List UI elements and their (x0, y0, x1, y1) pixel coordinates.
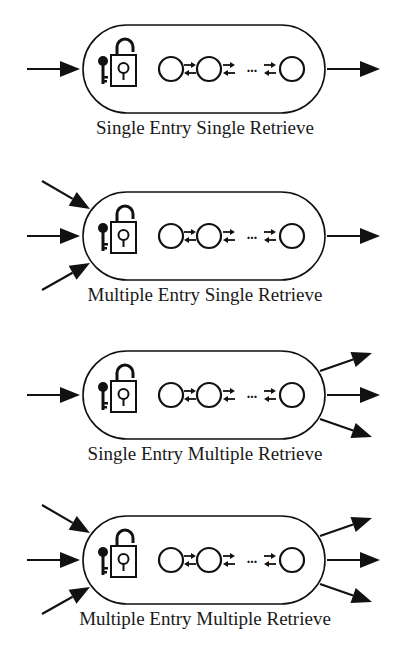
arrow-head (360, 552, 380, 568)
arrow-head (360, 61, 380, 77)
bidirectional-arrows-icon (223, 62, 235, 76)
arrow-shaft (320, 525, 353, 536)
arrow-shaft (42, 273, 73, 290)
retrieve-arrow-upper (320, 517, 372, 536)
arrow-head (60, 387, 80, 403)
panel-caption: Single Entry Single Retrieve (96, 117, 314, 138)
unlocked-padlock-icon (111, 39, 136, 86)
arrow-shaft (320, 584, 353, 595)
bidirectional-arrows-icon (264, 553, 276, 567)
circle-node-icon (159, 548, 183, 572)
arrow-head (60, 552, 80, 568)
arrow-head (350, 588, 372, 603)
circle-node-icon (280, 383, 304, 407)
arrow-head (350, 423, 372, 438)
retrieve-arrow (327, 61, 380, 77)
circle-node-icon (197, 548, 221, 572)
arrow-head (69, 516, 90, 533)
entry-arrow-lower (42, 263, 90, 290)
panel-caption: Multiple Entry Multiple Retrieve (79, 608, 331, 629)
bidirectional-arrows-icon (264, 229, 276, 243)
arrow-head (360, 387, 380, 403)
bidirectional-arrows-icon (184, 553, 196, 567)
arrow-shaft (42, 597, 73, 614)
retrieve-arrow-lower (320, 584, 372, 603)
ellipsis: ... (247, 551, 258, 566)
bidirectional-arrows-icon (223, 229, 235, 243)
unlocked-padlock-icon (111, 530, 136, 577)
arrow-shaft (42, 181, 73, 199)
arrow-shaft (320, 360, 353, 371)
circle-node-icon (159, 383, 183, 407)
entry-arrow-upper (42, 181, 90, 209)
key-icon (98, 223, 108, 251)
circle-node-icon (197, 224, 221, 248)
key-icon (98, 382, 108, 410)
arrow-head (360, 228, 380, 244)
arrow-head (60, 228, 80, 244)
entry-arrow (27, 387, 80, 403)
queue-diagram: ...Single Entry Single Retrieve...Multip… (0, 0, 406, 658)
unlocked-padlock-icon (111, 365, 136, 412)
panel-semr: ...Single Entry Multiple Retrieve (27, 351, 380, 464)
arrow-head (69, 263, 90, 280)
panel-caption: Single Entry Multiple Retrieve (88, 443, 323, 464)
unlocked-padlock-icon (111, 206, 136, 253)
arrow-head (60, 61, 80, 77)
circle-node-icon (280, 548, 304, 572)
entry-arrow (27, 228, 80, 244)
arrow-head (350, 352, 372, 367)
panel-mesr: ...Multiple Entry Single Retrieve (27, 181, 380, 305)
circle-node-icon (197, 57, 221, 81)
bidirectional-arrows-icon (223, 553, 235, 567)
entry-arrow (27, 61, 80, 77)
panel-caption: Multiple Entry Single Retrieve (88, 284, 323, 305)
retrieve-arrow (327, 552, 380, 568)
arrow-head (69, 192, 90, 209)
circle-node-icon (280, 57, 304, 81)
bidirectional-arrows-icon (264, 388, 276, 402)
arrow-head (69, 587, 90, 604)
arrow-shaft (42, 505, 73, 523)
bidirectional-arrows-icon (264, 62, 276, 76)
circle-node-icon (197, 383, 221, 407)
panel-sesr: ...Single Entry Single Retrieve (27, 25, 380, 138)
retrieve-arrow-upper (320, 352, 372, 371)
ellipsis: ... (247, 386, 258, 401)
bidirectional-arrows-icon (223, 388, 235, 402)
panel-memr: ...Multiple Entry Multiple Retrieve (27, 505, 380, 629)
circle-node-icon (159, 57, 183, 81)
bidirectional-arrows-icon (184, 388, 196, 402)
ellipsis: ... (247, 227, 258, 242)
key-icon (98, 56, 108, 84)
bidirectional-arrows-icon (184, 62, 196, 76)
key-icon (98, 547, 108, 575)
retrieve-arrow (327, 387, 380, 403)
arrow-head (350, 517, 372, 532)
entry-arrow-upper (42, 505, 90, 533)
retrieve-arrow-lower (320, 419, 372, 438)
retrieve-arrow (327, 228, 380, 244)
circle-node-icon (159, 224, 183, 248)
entry-arrow (27, 552, 80, 568)
bidirectional-arrows-icon (184, 229, 196, 243)
circle-node-icon (280, 224, 304, 248)
ellipsis: ... (247, 60, 258, 75)
arrow-shaft (320, 419, 353, 430)
